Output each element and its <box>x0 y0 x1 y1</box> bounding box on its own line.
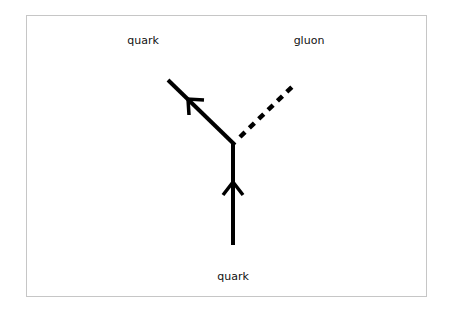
gluon-line <box>240 83 296 137</box>
incoming-quark-label: quark <box>217 270 249 283</box>
feynman-diagram <box>0 0 452 315</box>
outgoing-quark-line <box>168 80 235 145</box>
gluon-label: gluon <box>294 34 325 47</box>
outgoing-quark-label: quark <box>127 34 159 47</box>
